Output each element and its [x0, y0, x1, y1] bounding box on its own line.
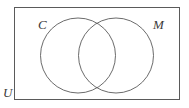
set-circle-m	[79, 18, 154, 93]
set-label-m: M	[153, 18, 164, 31]
venn-diagram-figure: C M U	[0, 0, 189, 108]
set-label-c: C	[38, 18, 47, 31]
set-circle-c	[41, 18, 116, 93]
universal-set-label: U	[3, 86, 12, 99]
